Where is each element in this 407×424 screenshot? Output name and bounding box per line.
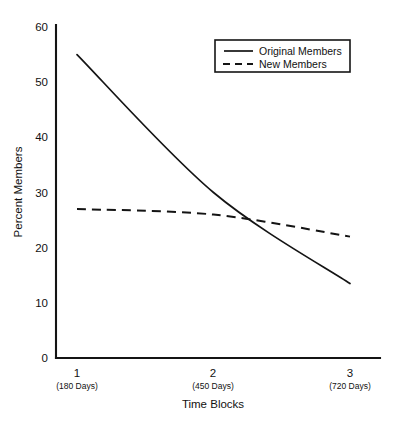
axis-lines xyxy=(56,25,380,358)
legend-label-new-members: New Members xyxy=(259,58,327,70)
x-tick-sublabel: (450 Days) xyxy=(192,381,234,391)
x-tick-label: 3 xyxy=(347,367,353,379)
y-tick-label: 40 xyxy=(35,131,48,143)
x-tick-sublabel: (180 Days) xyxy=(56,381,98,391)
series-new-members xyxy=(77,209,350,237)
series-line-solid xyxy=(77,55,350,284)
y-axis-tick-labels: 60 50 40 30 20 10 0 xyxy=(35,21,48,364)
legend-label-original-members: Original Members xyxy=(259,45,342,57)
x-tick-label: 1 xyxy=(74,367,80,379)
y-axis-title: Percent Members xyxy=(12,146,24,237)
y-tick-label: 0 xyxy=(42,352,48,364)
y-tick-label: 30 xyxy=(35,187,48,199)
series-original-members xyxy=(77,55,350,284)
series-line-dashed xyxy=(77,209,350,237)
x-tick-label: 2 xyxy=(210,367,216,379)
y-tick-label: 50 xyxy=(35,76,48,88)
x-axis-tick-labels: 1 (180 Days) 2 (450 Days) 3 (720 Days) xyxy=(56,367,371,391)
x-tick-sublabel: (720 Days) xyxy=(329,381,371,391)
chart-figure: 60 50 40 30 20 10 0 Percent Members 1 (1… xyxy=(0,0,407,424)
chart-legend: Original Members New Members xyxy=(215,40,350,72)
y-tick-label: 60 xyxy=(35,21,48,33)
x-axis-title: Time Blocks xyxy=(182,398,244,410)
y-tick-label: 20 xyxy=(35,242,48,254)
line-chart-canvas: 60 50 40 30 20 10 0 Percent Members 1 (1… xyxy=(0,0,407,424)
y-tick-label: 10 xyxy=(35,297,48,309)
